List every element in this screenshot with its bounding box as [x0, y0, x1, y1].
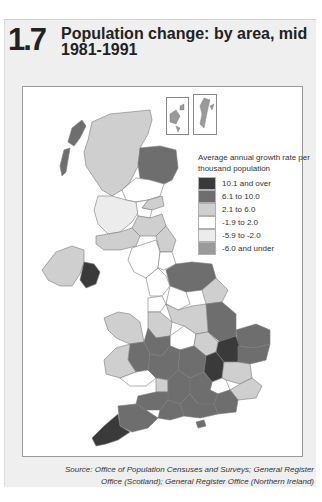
- legend-label: -5.9 to -2.0: [222, 231, 261, 240]
- legend-swatch: [198, 190, 216, 203]
- shetland-islands: [200, 98, 214, 128]
- source-line-2: Office (Scotland); General Register Offi…: [14, 476, 314, 488]
- legend-item: -1.9 to 2.0: [198, 216, 316, 229]
- legend: Average annual growth rate per thousand …: [198, 152, 316, 255]
- legend-item: 2.1 to 6.0: [198, 203, 316, 216]
- legend-item: 6.1 to 10.0: [198, 190, 316, 203]
- legend-title: Average annual growth rate per thousand …: [198, 152, 316, 174]
- legend-label: 10.1 and over: [222, 179, 271, 188]
- legend-swatch: [198, 203, 216, 216]
- legend-label: 2.1 to 6.0: [222, 205, 255, 214]
- legend-label: 6.1 to 10.0: [222, 192, 260, 201]
- legend-label: -1.9 to 2.0: [222, 218, 258, 227]
- legend-item: -6.0 and under: [198, 242, 316, 255]
- source-line-1: Source: Office of Population Censuses an…: [14, 464, 314, 476]
- legend-swatch: [198, 229, 216, 242]
- legend-swatch: [198, 177, 216, 190]
- legend-swatch: [198, 216, 216, 229]
- source-note: Source: Office of Population Censuses an…: [14, 464, 314, 488]
- legend-swatch: [198, 242, 216, 255]
- legend-label: -6.0 and under: [222, 244, 274, 253]
- orkney-islands: [170, 104, 184, 132]
- legend-item: -5.9 to -2.0: [198, 229, 316, 242]
- legend-item: 10.1 and over: [198, 177, 316, 190]
